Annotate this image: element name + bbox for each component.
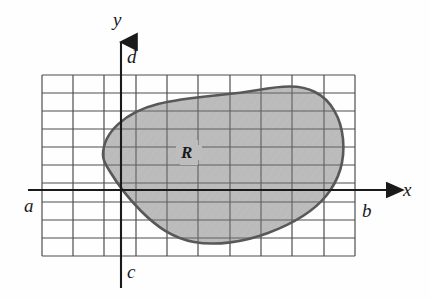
axis-label-c: c <box>127 262 135 281</box>
axis-label-a: a <box>24 196 34 215</box>
axis-label-d: d <box>127 47 137 66</box>
region-diagram <box>0 0 430 300</box>
axis-label-y: y <box>113 10 121 29</box>
figure-canvas: y d x a b c R <box>0 0 430 300</box>
region-label-R: R <box>181 144 192 161</box>
region-R-shape <box>95 80 355 255</box>
axis-label-x: x <box>403 180 411 199</box>
axis-label-b: b <box>362 201 372 220</box>
